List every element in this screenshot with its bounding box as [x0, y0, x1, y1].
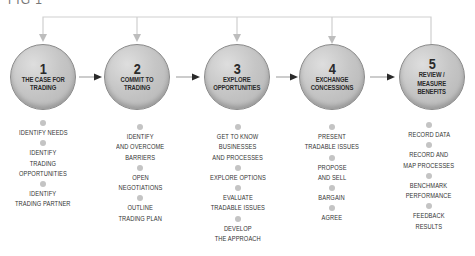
step-item: GET TO KNOW BUSINESSES AND PROCESSES: [213, 132, 264, 163]
bullet-dot: [329, 205, 335, 211]
bullet-dot: [329, 185, 335, 191]
stage-number: 3: [233, 62, 240, 76]
step-item: IDENTIFY NEEDS: [19, 128, 68, 138]
stage-5-circle: 5 REVIEW / MEASURE BENEFITS: [399, 44, 465, 110]
stage-2-circle: 2 COMMIT TO TRADING: [104, 44, 170, 110]
stage-1-steps: IDENTIFY NEEDS IDENTIFY TRADING OPPORTUN…: [0, 118, 98, 210]
stage-number: 5: [428, 57, 435, 71]
bullet-dot: [426, 122, 432, 128]
step-item: EVALUATE TRADABLE ISSUES: [211, 193, 265, 214]
step-item: IDENTIFY TRADING PARTNER: [15, 189, 71, 210]
stage-number: 2: [133, 62, 140, 76]
bullet-dot: [235, 185, 241, 191]
stage-4-steps: PRESENT TRADABLE ISSUES PROPOSE AND SELL…: [277, 122, 387, 224]
stage-number: 4: [328, 62, 335, 76]
bullet-dot: [329, 155, 335, 161]
stage-2-steps: IDENTIFY AND OVERCOME BARRIERS OPEN NEGO…: [85, 122, 195, 224]
step-item: RECORD AND MAP PROCESSES: [404, 150, 455, 171]
stage-title: EXCHANGE CONCESSIONS: [311, 76, 354, 93]
stage-number: 1: [39, 62, 46, 76]
bullet-dot: [426, 142, 432, 148]
step-item: IDENTIFY AND OVERCOME BARRIERS: [116, 132, 164, 163]
stage-title: REVIEW / MEASURE BENEFITS: [418, 71, 447, 97]
step-item: IDENTIFY TRADING OPPORTUNITIES: [19, 148, 67, 179]
bullet-dot: [426, 173, 432, 179]
bullet-dot: [137, 165, 143, 171]
stage-5-steps: RECORD DATA RECORD AND MAP PROCESSES BEN…: [374, 120, 475, 232]
bullet-dot: [426, 203, 432, 209]
step-item: FEEDBACK RESULTS: [413, 211, 445, 232]
bullet-dot: [40, 120, 46, 126]
bullet-dot: [40, 181, 46, 187]
bullet-dot: [137, 124, 143, 130]
bullet-dot: [329, 124, 335, 130]
stage-title: COMMIT TO TRADING: [121, 76, 154, 93]
step-item: PROPOSE AND SELL: [318, 163, 347, 184]
step-item: PRESENT TRADABLE ISSUES: [305, 132, 359, 153]
step-item: BENCHMARK PERFORMANCE: [406, 181, 452, 202]
feedback-arrowheads: [39, 34, 336, 44]
stage-4-circle: 4 EXCHANGE CONCESSIONS: [299, 44, 365, 110]
step-item: AGREE: [322, 213, 343, 223]
bullet-dot: [235, 216, 241, 222]
step-item: OPEN NEGOTIATIONS: [118, 173, 162, 194]
step-item: DEVELOP THE APPROACH: [215, 224, 261, 245]
stage-3-circle: 3 EXPLORE OPPORTUNITIES: [204, 44, 270, 110]
step-item: EXPLORE OPTIONS: [210, 173, 266, 183]
step-item: OUTLINE TRADING PLAN: [118, 203, 161, 224]
bullet-dot: [235, 165, 241, 171]
bullet-dot: [40, 140, 46, 146]
bullet-dot: [235, 124, 241, 130]
stage-title: EXPLORE OPPORTUNITIES: [213, 76, 260, 93]
step-item: RECORD DATA: [408, 130, 450, 140]
bullet-dot: [137, 195, 143, 201]
stage-1-circle: 1 THE CASE FOR TRADING: [10, 44, 76, 110]
step-item: BARGAIN: [319, 193, 345, 203]
stage-title: THE CASE FOR TRADING: [22, 76, 65, 93]
